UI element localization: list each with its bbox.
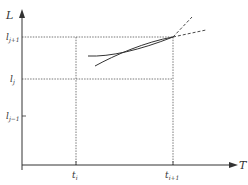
- x-axis-label: T: [239, 159, 248, 172]
- x-axis-arrow-icon: [229, 162, 238, 168]
- diagram-canvas: L T lj+1 lj lj−1 ti ti+1: [0, 0, 248, 185]
- x-tick-label-ti1: ti+1: [165, 170, 179, 181]
- y-tick-label-lj: lj: [10, 74, 15, 86]
- extension-shallow: [173, 30, 206, 37]
- y-tick-label-lj1: lj+1: [6, 32, 20, 44]
- y-axis-label: L: [5, 9, 13, 22]
- y-tick-label-lj-minus-1: lj−1: [6, 111, 20, 123]
- x-tick-label-ti: ti: [72, 170, 78, 181]
- y-axis-arrow-icon: [19, 9, 25, 18]
